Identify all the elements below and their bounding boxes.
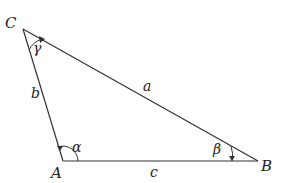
side-a-label: a bbox=[143, 78, 151, 94]
angle-beta-label: β bbox=[212, 141, 221, 157]
vertex-b-label: B bbox=[260, 157, 272, 175]
angle-alpha-arrow-icon bbox=[57, 146, 63, 151]
angle-beta-arrow-icon bbox=[229, 156, 235, 161]
angle-gamma-label: γ bbox=[33, 40, 42, 56]
side-a-line bbox=[23, 29, 258, 161]
angle-alpha-label: α bbox=[72, 139, 82, 155]
side-b-line bbox=[23, 29, 63, 161]
triangle-diagram: C A B a b c α β γ bbox=[0, 0, 284, 183]
vertex-a-label: A bbox=[49, 164, 62, 182]
side-c-label: c bbox=[150, 164, 158, 180]
vertex-c-label: C bbox=[5, 14, 17, 32]
side-b-label: b bbox=[31, 85, 40, 101]
